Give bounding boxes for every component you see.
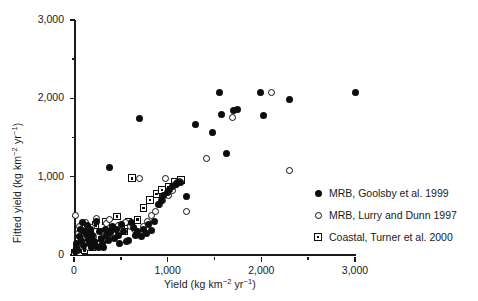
data-point	[72, 212, 79, 219]
x-axis-minor-tick	[120, 257, 121, 260]
data-point	[100, 244, 107, 251]
data-point	[234, 106, 241, 113]
data-point	[257, 89, 264, 96]
data-point	[260, 112, 267, 119]
data-point	[140, 204, 148, 212]
data-point	[268, 89, 275, 96]
x-axis-tick-label: 2,000	[231, 264, 291, 276]
x-axis-tick-label: 0	[44, 264, 104, 276]
legend-marker	[314, 233, 322, 241]
dotted-square-icon	[312, 231, 324, 243]
data-point	[125, 237, 132, 244]
x-axis-title: Yield (kg km−2 yr−1)	[0, 278, 420, 290]
x-axis-tick-label: 1,000	[138, 264, 198, 276]
data-point	[223, 150, 230, 157]
x-axis-tick	[261, 257, 262, 262]
legend-item-0: MRB, Goolsby et al. 1999	[312, 182, 478, 204]
x-axis-minor-tick	[307, 257, 308, 260]
data-point	[192, 121, 199, 128]
data-point	[148, 227, 155, 234]
open-circle-icon	[312, 209, 324, 221]
data-point	[218, 111, 225, 118]
data-point	[106, 164, 113, 171]
data-point	[113, 213, 121, 221]
legend-label: MRB, Goolsby et al. 1999	[329, 187, 449, 199]
data-point	[136, 115, 143, 122]
scatter-plot-figure: Fitted yield (kg km−2 yr−1) Yield (kg km…	[0, 0, 478, 301]
legend-label: MRB, Lurry and Dunn 1997	[329, 209, 457, 221]
legend-marker	[315, 190, 322, 197]
y-axis-tick-label: 3,000	[6, 13, 64, 25]
y-axis-tick-label: 2,000	[6, 91, 64, 103]
x-axis-tick	[167, 257, 168, 262]
data-point	[134, 216, 142, 224]
data-point	[93, 218, 100, 225]
data-point	[183, 208, 190, 215]
data-point	[177, 179, 184, 186]
legend-item-1: MRB, Lurry and Dunn 1997	[312, 204, 478, 226]
legend-label: Coastal, Turner et al. 2000	[329, 231, 453, 243]
data-point	[286, 96, 293, 103]
legend-marker	[315, 212, 322, 219]
legend-item-2: Coastal, Turner et al. 2000	[312, 226, 478, 248]
x-axis-tick	[354, 257, 355, 262]
data-point	[203, 155, 210, 162]
x-axis-minor-tick	[214, 257, 215, 260]
data-point	[183, 193, 190, 200]
x-axis-tick-label: 3,000	[325, 264, 385, 276]
data-point	[162, 175, 169, 182]
x-axis-tick	[73, 257, 74, 262]
data-point	[152, 208, 159, 215]
y-axis-tick-label: 0	[6, 248, 64, 260]
y-axis-tick-label: 1,000	[6, 170, 64, 182]
data-point	[352, 89, 359, 96]
data-point	[136, 175, 143, 182]
data-point	[229, 114, 236, 121]
data-point	[286, 167, 293, 174]
y-axis-title: Fitted yield (kg km−2 yr−1)	[11, 123, 23, 243]
legend: MRB, Goolsby et al. 1999MRB, Lurry and D…	[312, 182, 478, 248]
data-point	[216, 89, 223, 96]
data-point	[151, 218, 158, 225]
data-point	[209, 129, 216, 136]
filled-circle-icon	[312, 187, 324, 199]
data-point	[128, 174, 136, 182]
